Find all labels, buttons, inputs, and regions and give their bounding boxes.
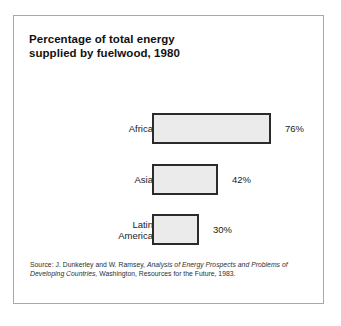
bar-category-label-line: Latin <box>132 219 153 230</box>
bar-category-label: Asia <box>135 164 153 195</box>
bar-africa <box>152 113 271 144</box>
source-note-suffix: Washington, Resources for the Future, 19… <box>97 270 235 277</box>
bar-category-label: Africa <box>129 113 153 144</box>
bar-value-label: 42% <box>232 164 251 195</box>
source-note-prefix: Source: J. Dunkerley and W. Ramsey, <box>30 261 147 268</box>
bar-asia <box>152 164 218 195</box>
bar-row: Africa76% <box>14 113 325 144</box>
bar-category-label-line: Asia <box>135 174 153 185</box>
source-note: Source: J. Dunkerley and W. Ramsey, Anal… <box>30 260 314 278</box>
bar-latin-america <box>152 214 199 245</box>
chart-plot-area: Africa76%Asia42%LatinAmerica30% <box>14 16 325 256</box>
bar-row: Asia42% <box>14 164 325 195</box>
bar-value-label: 30% <box>213 214 232 245</box>
figure-container: Percentage of total energy supplied by f… <box>0 0 341 326</box>
figure-frame: Percentage of total energy supplied by f… <box>13 15 324 304</box>
bar-row: LatinAmerica30% <box>14 214 325 245</box>
bar-value-label: 76% <box>285 113 304 144</box>
bar-category-label-line: America <box>118 230 153 241</box>
bar-category-label: LatinAmerica <box>118 214 153 245</box>
bar-category-label-line: Africa <box>129 123 153 134</box>
